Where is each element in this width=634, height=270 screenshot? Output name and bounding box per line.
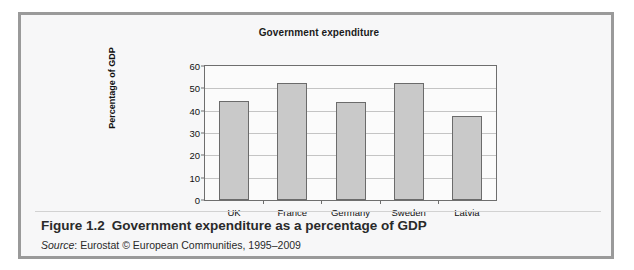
figure-caption: Figure 1.2Government expenditure as a pe… (41, 218, 427, 233)
y-axis-tick-mark (201, 88, 205, 89)
x-axis-tick-label: Germany (331, 207, 370, 218)
y-axis-tick-mark (201, 200, 205, 201)
x-axis-tick-mark (321, 200, 322, 204)
bar-germany (336, 102, 366, 200)
y-axis-tick-label: 50 (189, 83, 200, 94)
y-axis-tick-mark (201, 110, 205, 111)
gridline (205, 88, 496, 89)
x-axis-tick-mark (438, 200, 439, 204)
plot-area: 0102030405060UKFranceGermanySwedenLatvia (204, 65, 497, 201)
source-text: Eurostat © European Communities, 1995–20… (80, 239, 301, 251)
figure-number: Figure 1.2 (41, 218, 105, 233)
x-axis-tick-label: Latvia (454, 207, 479, 218)
x-axis-tick-label: France (278, 207, 308, 218)
y-axis-tick-mark (201, 155, 205, 156)
source-label: Source (41, 239, 74, 251)
y-axis-tick-label: 60 (189, 61, 200, 72)
y-axis-tick-mark (201, 133, 205, 134)
bar-latvia (452, 116, 482, 200)
y-axis-tick-label: 40 (189, 105, 200, 116)
bar-uk (219, 101, 249, 200)
x-axis-tick-label: UK (227, 207, 240, 218)
x-axis-tick-mark (380, 200, 381, 204)
y-axis-tick-mark (201, 66, 205, 67)
bar-sweden (394, 83, 424, 200)
y-axis-tick-label: 20 (189, 150, 200, 161)
chart-container: Government expenditure Percentage of GDP… (143, 27, 495, 213)
figure-source: Source: Eurostat © European Communities,… (41, 239, 301, 251)
y-axis-title: Percentage of GDP (107, 21, 117, 155)
x-axis-tick-mark (263, 200, 264, 204)
x-axis-tick-label: Sweden (392, 207, 426, 218)
figure-caption-text: Government expenditure as a percentage o… (112, 218, 427, 233)
chart-title: Government expenditure (143, 27, 495, 38)
y-axis-tick-label: 30 (189, 128, 200, 139)
bar-france (277, 83, 307, 200)
y-axis-tick-mark (201, 177, 205, 178)
figure-card: Government expenditure Percentage of GDP… (18, 12, 614, 259)
caption-divider (35, 211, 601, 212)
y-axis-tick-label: 10 (189, 172, 200, 183)
y-axis-tick-label: 0 (195, 195, 200, 206)
